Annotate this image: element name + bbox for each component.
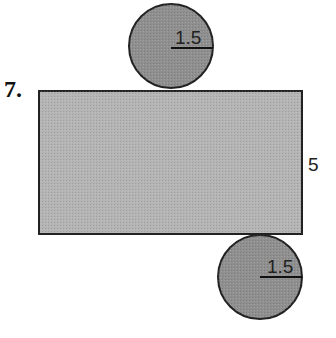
top-circle: 1.5 xyxy=(129,4,213,88)
lateral-rectangle xyxy=(39,91,302,234)
bottom-radius-label: 1.5 xyxy=(267,256,293,277)
problem-number: 7. xyxy=(4,76,22,102)
cylinder-net-diagram: 7. 1.5 5 1.5 xyxy=(0,0,336,338)
rectangle-height-label: 5 xyxy=(308,154,319,175)
bottom-circle: 1.5 xyxy=(218,235,302,319)
top-radius-label: 1.5 xyxy=(175,27,201,48)
